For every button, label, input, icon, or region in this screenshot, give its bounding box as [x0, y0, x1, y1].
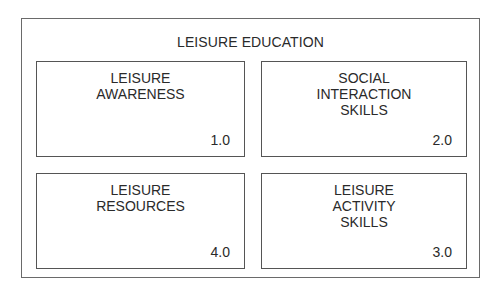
component-number: 1.0	[211, 132, 230, 148]
component-social-interaction-skills: SOCIAL INTERACTION SKILLS 2.0	[261, 61, 467, 157]
component-label: SOCIAL INTERACTION SKILLS	[262, 70, 466, 118]
component-number: 3.0	[433, 244, 452, 260]
component-leisure-activity-skills: LEISURE ACTIVITY SKILLS 3.0	[261, 173, 467, 269]
component-number: 2.0	[433, 132, 452, 148]
diagram-title: LEISURE EDUCATION	[21, 34, 480, 50]
component-leisure-awareness: LEISURE AWARENESS 1.0	[36, 61, 245, 157]
component-label: LEISURE ACTIVITY SKILLS	[262, 182, 466, 230]
component-label: LEISURE RESOURCES	[37, 182, 244, 214]
component-label: LEISURE AWARENESS	[37, 70, 244, 102]
component-leisure-resources: LEISURE RESOURCES 4.0	[36, 173, 245, 269]
component-number: 4.0	[211, 244, 230, 260]
